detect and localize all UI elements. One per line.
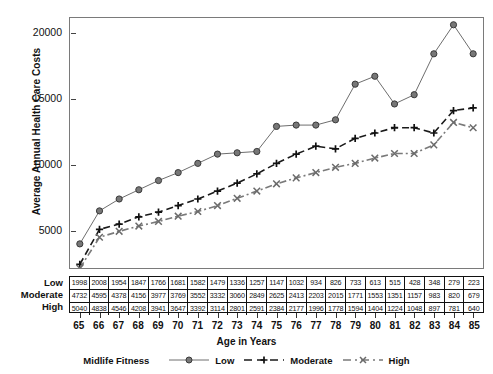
table-cell: 4208 xyxy=(129,303,149,315)
y-axis-tick-labels: 2000015000100005000 xyxy=(8,0,62,270)
table-cell: 2625 xyxy=(267,290,287,302)
table-cell: 1351 xyxy=(386,290,406,302)
x-tick-label: 67 xyxy=(109,320,129,334)
table-row-label: Low xyxy=(0,277,63,288)
table-cell: 3060 xyxy=(228,290,248,302)
table-cell: 279 xyxy=(445,277,465,289)
table-cell: 2177 xyxy=(287,303,307,315)
data-point xyxy=(214,187,221,194)
table-cell: 1681 xyxy=(169,277,189,289)
table-cell: 5040 xyxy=(70,303,90,315)
x-tick-label: 75 xyxy=(267,320,287,334)
table-cell: 4732 xyxy=(70,290,90,302)
table-cell: 4595 xyxy=(90,290,110,302)
table-cell: 1147 xyxy=(267,277,287,289)
table-row: 4732459543784156397737693552333230602849… xyxy=(70,290,483,303)
table-cell: 3114 xyxy=(208,303,228,315)
table-cell: 640 xyxy=(464,303,483,315)
data-point xyxy=(116,220,123,227)
data-point xyxy=(470,124,477,131)
x-tick-label: 66 xyxy=(89,320,109,334)
legend-label: Moderate xyxy=(290,355,332,366)
y-tick-label: 15000 xyxy=(10,92,62,104)
table-cell: 4156 xyxy=(129,290,149,302)
x-tick-label: 68 xyxy=(128,320,148,334)
x-tick-label: 74 xyxy=(247,320,267,334)
data-point xyxy=(411,92,417,98)
table-cell: 934 xyxy=(307,277,327,289)
data-point xyxy=(214,151,220,157)
legend-item-high: High xyxy=(342,354,410,366)
table-cell: 679 xyxy=(464,290,483,302)
table-cell: 1954 xyxy=(109,277,129,289)
x-tick-label: 81 xyxy=(385,320,405,334)
data-point xyxy=(273,181,280,188)
legend-label: High xyxy=(389,355,410,366)
table-cell: 733 xyxy=(346,277,366,289)
data-point xyxy=(273,123,279,129)
x-tick-label: 83 xyxy=(425,320,445,334)
legend-item-moderate: Moderate xyxy=(243,354,332,366)
data-point xyxy=(411,124,418,131)
table-row-label: Moderate xyxy=(0,289,63,300)
table-cell: 1479 xyxy=(208,277,228,289)
data-point xyxy=(135,213,142,220)
data-point xyxy=(352,135,359,142)
table-cell: 3977 xyxy=(149,290,169,302)
y-tick-label: 10000 xyxy=(10,158,62,170)
series-line xyxy=(80,25,473,244)
x-tick-label: 85 xyxy=(464,320,484,334)
data-point xyxy=(194,195,201,202)
table-cell: 1032 xyxy=(287,277,307,289)
table-cell: 1048 xyxy=(405,303,425,315)
table-cell: 781 xyxy=(445,303,465,315)
x-marker-icon xyxy=(342,354,384,366)
table-cell: 2008 xyxy=(90,277,110,289)
x-tick-label: 70 xyxy=(168,320,188,334)
table-cell: 515 xyxy=(386,277,406,289)
data-point xyxy=(431,51,437,57)
table-cell: 4838 xyxy=(90,303,110,315)
table-cell: 983 xyxy=(425,290,445,302)
chart-figure: Average Annual Health Care Costs 2000015… xyxy=(0,0,493,374)
data-point xyxy=(273,160,280,167)
x-tick-label: 72 xyxy=(207,320,227,334)
data-point xyxy=(96,226,103,233)
y-tick-label: 20000 xyxy=(10,26,62,38)
series-low xyxy=(77,22,477,247)
table-cell: 1594 xyxy=(346,303,366,315)
table-cell: 3769 xyxy=(169,290,189,302)
x-axis-title: Age in Years xyxy=(0,336,493,347)
plus-marker-icon xyxy=(243,354,285,366)
data-point xyxy=(352,81,358,87)
data-point xyxy=(254,148,260,154)
data-point xyxy=(175,170,181,176)
table-cell: 3332 xyxy=(208,290,228,302)
legend-title: Midlife Fitness xyxy=(83,355,149,366)
chart-legend: Midlife Fitness LowModerateHigh xyxy=(0,354,493,366)
series-line xyxy=(80,108,473,264)
table-cell: 826 xyxy=(326,277,346,289)
data-point xyxy=(470,51,476,57)
table-cell: 4546 xyxy=(109,303,129,315)
table-cell: 3941 xyxy=(149,303,169,315)
x-tick-label: 84 xyxy=(445,320,465,334)
x-tick-label: 73 xyxy=(227,320,247,334)
x-tick-label: 79 xyxy=(346,320,366,334)
table-cell: 1847 xyxy=(129,277,149,289)
data-point xyxy=(293,151,300,158)
data-point xyxy=(77,241,83,247)
data-point xyxy=(116,196,122,202)
data-point xyxy=(175,202,182,209)
table-cell: 1998 xyxy=(70,277,90,289)
table-cell: 1336 xyxy=(228,277,248,289)
table-cell: 1404 xyxy=(366,303,386,315)
legend-item-low: Low xyxy=(168,354,234,366)
table-cell: 4378 xyxy=(109,290,129,302)
data-point xyxy=(332,145,339,152)
table-cell: 1766 xyxy=(149,277,169,289)
data-point xyxy=(136,187,142,193)
table-cell: 1996 xyxy=(307,303,327,315)
y-tick-label: 5000 xyxy=(10,224,62,236)
data-point xyxy=(313,122,319,128)
